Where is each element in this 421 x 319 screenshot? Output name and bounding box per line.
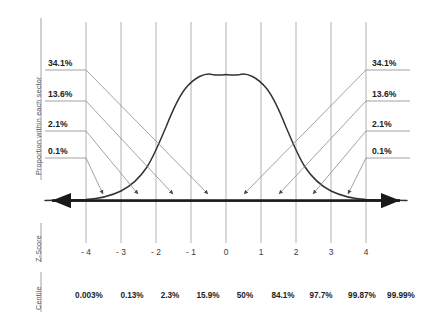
proportion-label-left-1: 13.6% — [48, 89, 72, 99]
proportion-label-left-2: 2.1% — [48, 119, 68, 129]
proportion-label-right-3: 0.1% — [372, 146, 392, 156]
ztick-1: - 3 — [116, 247, 126, 257]
centile-3: 15.9% — [196, 291, 219, 300]
centile-4: 50% — [237, 291, 253, 300]
axis-title-proportion: Proportion within each sector — [34, 77, 43, 176]
ztick-8: 4 — [364, 247, 369, 257]
centile-5: 84.1% — [271, 291, 294, 300]
proportion-label-left-3: 0.1% — [48, 146, 68, 156]
ztick-7: 3 — [329, 247, 334, 257]
ztick-5: 1 — [259, 247, 264, 257]
ztick-3: - 1 — [186, 247, 196, 257]
figure-canvas — [0, 0, 421, 319]
centile-1: 0.13% — [120, 291, 143, 300]
ztick-0: - 4 — [81, 247, 91, 257]
centile-6: 97.7% — [309, 291, 332, 300]
proportion-label-right-2: 2.1% — [372, 119, 392, 129]
axis-title-centile: Centile — [34, 286, 43, 310]
axis-title-zscore: Z-Score — [34, 235, 43, 262]
ztick-2: - 2 — [151, 247, 161, 257]
proportion-label-left-0: 34.1% — [48, 58, 72, 68]
ztick-4: 0 — [224, 247, 229, 257]
gridlines — [86, 22, 366, 243]
centile-7: 99.87% — [348, 291, 376, 300]
normal-distribution-figure: Proportion within each sector Z-Score Ce… — [0, 0, 421, 319]
centile-8: 99.99% — [387, 291, 415, 300]
ztick-6: 2 — [294, 247, 299, 257]
centile-0: 0.003% — [75, 291, 103, 300]
proportion-label-right-1: 13.6% — [372, 89, 396, 99]
proportion-label-right-0: 34.1% — [372, 58, 396, 68]
centile-2: 2.3% — [161, 291, 180, 300]
